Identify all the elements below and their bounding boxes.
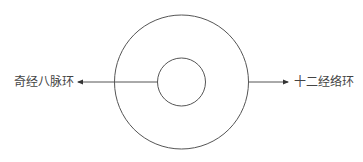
left-ring-label: 奇经八脉环 (14, 75, 74, 89)
right-ring-label: 十二经络环 (294, 75, 354, 89)
inner-ring-circle (158, 58, 206, 106)
